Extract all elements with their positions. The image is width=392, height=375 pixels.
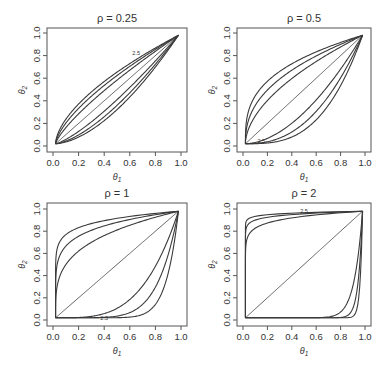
x-tick-label: 1.0 — [358, 157, 371, 168]
contour-label: 2.5 — [100, 315, 108, 321]
y-tick-label: 0.2 — [221, 291, 232, 304]
x-tick-label: 0.8 — [334, 331, 347, 342]
y-axis: 0.00.20.40.60.81.0θ2 — [17, 202, 47, 326]
x-axis-label: θ1 — [113, 172, 122, 183]
x-tick-label: 0.4 — [285, 157, 298, 168]
y-tick-label: 1.0 — [31, 26, 42, 39]
x-tick-label: 0.0 — [46, 157, 59, 168]
x-tick-label: 0.2 — [72, 331, 85, 342]
x-tick-label: 0.0 — [46, 331, 59, 342]
x-tick-label: 0.0 — [236, 157, 249, 168]
panel-rho-0.5: ρ = 0.50.00.20.40.60.81.0θ10.00.20.40.60… — [207, 12, 372, 183]
x-tick-label: 0.6 — [123, 157, 136, 168]
y-axis-label: θ2 — [207, 260, 218, 269]
curve — [56, 35, 179, 143]
y-tick-label: 0.0 — [31, 139, 42, 152]
y-axis-label: θ2 — [17, 85, 28, 94]
y-tick-label: 0.6 — [221, 72, 232, 85]
y-axis-label: θ2 — [17, 260, 28, 269]
y-tick-label: 1.0 — [221, 202, 232, 215]
x-tick-label: 0.0 — [236, 331, 249, 342]
y-tick-label: 0.0 — [221, 139, 232, 152]
x-tick-label: 1.0 — [358, 331, 371, 342]
panel-title: ρ = 0.25 — [97, 12, 137, 24]
contour-label: 2.5 — [132, 50, 140, 56]
y-tick-label: 0.2 — [221, 117, 232, 130]
y-axis: 0.00.20.40.60.81.0θ2 — [207, 26, 237, 152]
x-tick-label: 0.8 — [149, 157, 162, 168]
x-tick-label: 0.2 — [261, 331, 274, 342]
y-tick-label: 0.2 — [31, 117, 42, 130]
y-tick-label: 0.2 — [31, 291, 42, 304]
y-tick-label: 0.8 — [221, 225, 232, 238]
contour-label: 2.5 — [300, 208, 308, 214]
panel-title: ρ = 1 — [105, 187, 130, 199]
figure: ρ = 0.250.00.20.40.60.81.0θ10.00.20.40.6… — [0, 0, 392, 375]
y-tick-label: 0.6 — [31, 247, 42, 260]
x-axis: 0.00.20.40.60.81.0θ1 — [46, 152, 187, 183]
curves — [56, 35, 179, 143]
x-tick-label: 0.4 — [285, 331, 298, 342]
x-axis: 0.00.20.40.60.81.0θ1 — [46, 326, 187, 357]
x-axis-label: θ1 — [300, 172, 309, 183]
x-tick-label: 0.6 — [310, 157, 323, 168]
y-tick-label: 0.4 — [221, 269, 232, 282]
curves — [56, 211, 179, 318]
curves — [245, 211, 362, 318]
curve — [56, 211, 179, 318]
x-tick-label: 0.6 — [123, 331, 136, 342]
y-axis: 0.00.20.40.60.81.0θ2 — [17, 26, 47, 152]
x-tick-label: 0.2 — [261, 157, 274, 168]
x-tick-label: 0.4 — [98, 331, 111, 342]
y-tick-label: 0.8 — [221, 49, 232, 62]
y-tick-label: 0.6 — [31, 72, 42, 85]
x-tick-label: 1.0 — [174, 157, 187, 168]
y-tick-label: 0.4 — [31, 269, 42, 282]
x-axis: 0.00.20.40.60.81.0θ1 — [236, 326, 371, 357]
x-tick-label: 0.8 — [334, 157, 347, 168]
x-tick-label: 0.8 — [149, 331, 162, 342]
y-axis-label: θ2 — [207, 85, 218, 94]
y-tick-label: 1.0 — [221, 26, 232, 39]
x-axis-label: θ1 — [113, 346, 122, 357]
curve — [245, 35, 362, 143]
x-axis: 0.00.20.40.60.81.0θ1 — [236, 152, 371, 183]
panel-rho-2: ρ = 20.00.20.40.60.81.0θ10.00.20.40.60.8… — [207, 187, 372, 357]
y-tick-label: 0.6 — [221, 247, 232, 260]
x-axis-label: θ1 — [300, 346, 309, 357]
y-tick-label: 1.0 — [31, 202, 42, 215]
x-tick-label: 0.6 — [310, 331, 323, 342]
y-tick-label: 0.4 — [221, 94, 232, 107]
y-tick-label: 0.0 — [31, 313, 42, 326]
x-tick-label: 1.0 — [174, 331, 187, 342]
panel-title: ρ = 2 — [292, 187, 317, 199]
y-axis: 0.00.20.40.60.81.0θ2 — [207, 202, 237, 326]
panel-rho-0.25: ρ = 0.250.00.20.40.60.81.0θ10.00.20.40.6… — [17, 12, 188, 183]
y-tick-label: 0.4 — [31, 94, 42, 107]
x-tick-label: 0.4 — [98, 157, 111, 168]
panel-rho-1: ρ = 10.00.20.40.60.81.0θ10.00.20.40.60.8… — [17, 187, 188, 357]
y-tick-label: 0.0 — [221, 313, 232, 326]
y-tick-label: 0.8 — [31, 49, 42, 62]
y-tick-label: 0.8 — [31, 225, 42, 238]
panel-title: ρ = 0.5 — [287, 12, 321, 24]
x-tick-label: 0.2 — [72, 157, 85, 168]
curves — [245, 35, 362, 143]
contour-label: 2.5 — [257, 138, 265, 144]
curve — [245, 211, 362, 318]
